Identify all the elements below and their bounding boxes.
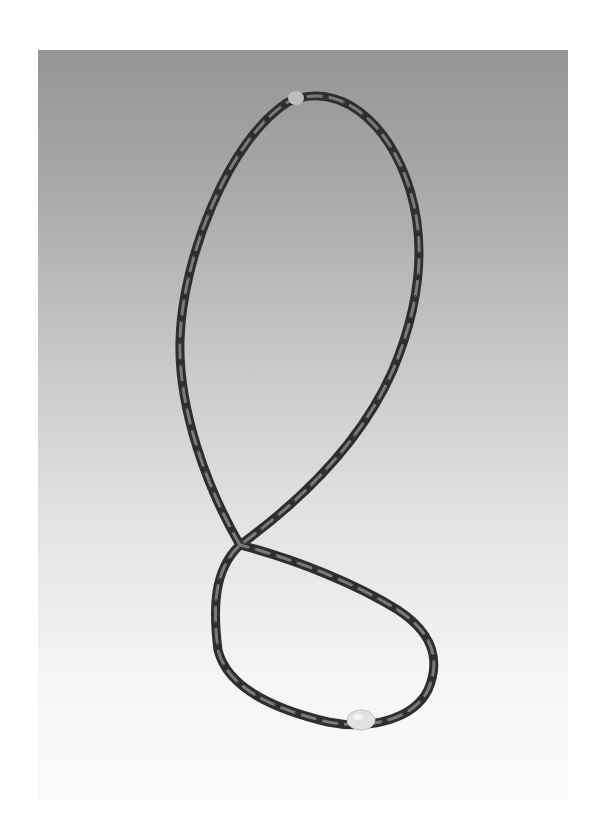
top-accent-bead (288, 91, 304, 105)
bottom-accent-bead (347, 710, 375, 730)
product-photo (38, 50, 568, 800)
necklace-strand (180, 96, 434, 725)
necklace-illustration (38, 50, 568, 800)
